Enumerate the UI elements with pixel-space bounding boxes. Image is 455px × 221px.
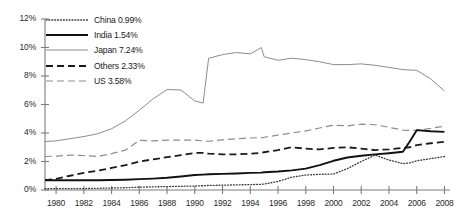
line-chart: 0%2%4%6%8%10%12% 19801982198419861988199… — [0, 0, 455, 221]
legend-item-china[interactable]: China 0.99% — [46, 12, 176, 27]
y-axis-tick-label: 2% — [8, 156, 36, 166]
legend-item-others[interactable]: Others 2.33% — [46, 58, 176, 73]
y-axis-tick-label: 8% — [8, 70, 36, 80]
y-axis-tick-label: 10% — [8, 42, 36, 52]
series-line-us — [45, 124, 444, 156]
y-axis-tick-label: 4% — [8, 127, 36, 137]
legend-swatch-solid-thin-icon — [46, 45, 88, 55]
series-line-china — [45, 155, 444, 188]
y-axis-tick-label: 12% — [8, 13, 36, 23]
x-axis-tick-label: 2008 — [427, 198, 455, 208]
legend-item-japan[interactable]: Japan 7.24% — [46, 43, 176, 58]
legend-swatch-dashed-thin-icon — [46, 76, 88, 86]
legend-label: Others 2.33% — [94, 61, 145, 71]
y-axis-tick-label: 6% — [8, 99, 36, 109]
legend-label: China 0.99% — [94, 15, 142, 25]
chart-legend: China 0.99%India 1.54%Japan 7.24%Others … — [46, 12, 176, 89]
legend-label: US 3.58% — [94, 76, 132, 86]
y-axis-tick-label: 0% — [8, 184, 36, 194]
series-line-others — [45, 142, 444, 180]
legend-swatch-dotted-icon — [46, 15, 88, 25]
legend-item-us[interactable]: US 3.58% — [46, 74, 176, 89]
legend-swatch-solid-thick-icon — [46, 30, 88, 40]
legend-label: India 1.54% — [94, 30, 138, 40]
legend-swatch-dashed-thick-icon — [46, 61, 88, 71]
legend-label: Japan 7.24% — [94, 45, 143, 55]
legend-item-india[interactable]: India 1.54% — [46, 27, 176, 42]
